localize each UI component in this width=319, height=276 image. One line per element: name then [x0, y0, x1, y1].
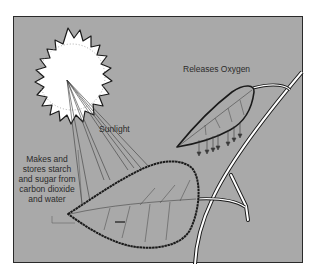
upper-leaf	[177, 86, 254, 147]
sun-icon	[35, 28, 112, 124]
sunlight-label: Sunlight	[99, 124, 130, 134]
makes-stores-label: Makes and stores starch and sugar from c…	[14, 154, 80, 204]
lower-leaf	[68, 161, 199, 247]
oxygen-label: Releases Oxygen	[183, 64, 250, 74]
photosynthesis-illustration	[0, 0, 319, 276]
